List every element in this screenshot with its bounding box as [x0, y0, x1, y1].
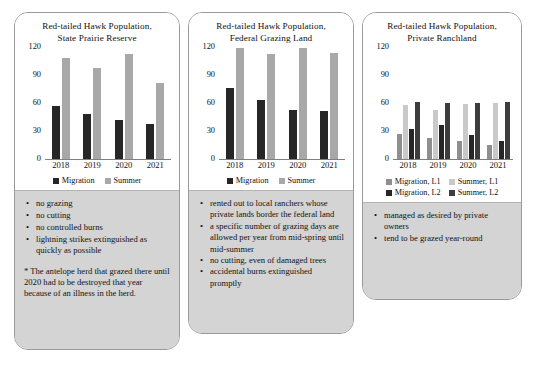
y-tick-label: 120 — [376, 43, 389, 51]
chart-area-2: Red-tailed Hawk Population, Federal Graz… — [189, 13, 353, 190]
bar — [463, 104, 468, 159]
bar — [487, 145, 492, 159]
bar — [83, 114, 91, 159]
x-tick-label: 2018 — [45, 160, 77, 171]
plot-wrapper-3: 0306090120 2018201920202021 — [369, 47, 515, 175]
chart-legend-2: MigrationSummer — [195, 176, 347, 186]
legend-swatch-icon — [227, 178, 233, 184]
x-tick-label: 2018 — [393, 160, 423, 171]
x-axis-labels-2: 2018201920202021 — [219, 160, 345, 171]
legend-label: Summer, L1 — [458, 177, 499, 187]
plot-wrapper-1: 0306090120 2018201920202021 — [21, 47, 173, 175]
x-tick-label: 2018 — [219, 160, 251, 171]
x-tick-label: 2019 — [423, 160, 453, 171]
bar-group — [423, 47, 453, 159]
x-tick-label: 2021 — [140, 160, 172, 171]
y-tick-label: 30 — [33, 127, 41, 135]
x-tick-label: 2020 — [108, 160, 140, 171]
note-bullet: tend to be grazed year-round — [382, 233, 512, 244]
chart-legend-3: Migration, L1Summer, L1Migration, L2Summ… — [369, 177, 515, 198]
y-tick-label: 0 — [211, 155, 215, 163]
bar — [415, 102, 420, 159]
bar — [156, 83, 164, 159]
y-tick-label: 30 — [381, 127, 389, 135]
chart-title-2-line1: Red-tailed Hawk Population, — [195, 20, 347, 32]
plot-wrapper-2: 0306090120 2018201920202021 — [195, 47, 347, 175]
panel-federal-grazing-land: Red-tailed Hawk Population, Federal Graz… — [188, 12, 354, 334]
note-bullet: no controlled burns — [34, 222, 170, 233]
y-tick-label: 90 — [33, 71, 41, 79]
y-axis-3: 0306090120 — [369, 47, 391, 159]
legend-swatch-icon — [449, 190, 455, 196]
legend-label: Migration — [236, 176, 269, 186]
note-bullet: accidental burns extinguished promptly — [208, 266, 344, 289]
bar-group — [453, 47, 483, 159]
bar-group — [314, 47, 346, 159]
bar-group — [45, 47, 77, 159]
bar — [289, 110, 297, 159]
legend-swatch-icon — [449, 179, 455, 185]
bar — [320, 111, 328, 159]
notes-box-1: no grazingno cuttingno controlled burnsl… — [15, 190, 179, 349]
note-bullet: a specific number of grazing days are al… — [208, 221, 344, 255]
notes-box-2: rented out to local ranchers whose priva… — [189, 190, 353, 333]
notes-footnote-1: * The antelope herd that grazed there un… — [24, 266, 170, 300]
chart-area-1: Red-tailed Hawk Population, State Prairi… — [15, 13, 179, 190]
x-tick-label: 2019 — [77, 160, 109, 171]
legend-item: Summer — [279, 176, 316, 186]
legend-item: Summer, L2 — [449, 188, 499, 198]
panel-state-prairie-reserve: Red-tailed Hawk Population, State Prairi… — [14, 12, 180, 350]
legend-swatch-icon — [279, 178, 285, 184]
chart-title-3-line1: Red-tailed Hawk Population, — [369, 20, 515, 32]
bar — [226, 88, 234, 159]
y-tick-label: 90 — [207, 71, 215, 79]
legend-item: Summer — [105, 176, 142, 186]
bar — [505, 102, 510, 159]
note-bullet: rented out to local ranchers whose priva… — [208, 198, 344, 221]
y-tick-label: 30 — [207, 127, 215, 135]
y-tick-label: 60 — [33, 99, 41, 107]
y-tick-label: 120 — [202, 43, 215, 51]
legend-label: Summer — [114, 176, 142, 186]
bar — [445, 103, 450, 159]
y-tick-label: 120 — [28, 43, 41, 51]
bar — [499, 141, 504, 159]
y-tick-label: 90 — [381, 71, 389, 79]
bar-group — [251, 47, 283, 159]
legend-label: Summer — [288, 176, 316, 186]
notes-list-3: managed as desired by private ownerstend… — [372, 210, 512, 245]
chart-area-3: Red-tailed Hawk Population, Private Ranc… — [363, 13, 521, 202]
legend-swatch-icon — [386, 190, 392, 196]
legend-item: Migration, L1 — [386, 177, 441, 187]
bar — [236, 48, 244, 159]
bar — [93, 68, 101, 159]
slide-canvas: Red-tailed Hawk Population, State Prairi… — [0, 0, 538, 367]
x-axis-labels-1: 2018201920202021 — [45, 160, 171, 171]
bar — [427, 138, 432, 159]
bar-group — [393, 47, 423, 159]
bar — [52, 106, 60, 159]
y-tick-label: 0 — [385, 155, 389, 163]
legend-swatch-icon — [105, 178, 111, 184]
legend-label: Migration, L1 — [395, 177, 441, 187]
x-tick-label: 2020 — [453, 160, 483, 171]
legend-label: Migration, L2 — [395, 188, 441, 198]
notes-box-3: managed as desired by private ownerstend… — [363, 202, 521, 299]
x-tick-label: 2021 — [314, 160, 346, 171]
bar — [403, 105, 408, 159]
bar — [267, 54, 275, 159]
bar — [493, 103, 498, 159]
note-bullet: no cutting — [34, 210, 170, 221]
chart-title-2: Red-tailed Hawk Population, Federal Graz… — [195, 20, 347, 44]
plot-bars-1 — [45, 47, 171, 160]
bar — [439, 125, 444, 159]
bar — [299, 48, 307, 159]
legend-item: Migration — [53, 176, 95, 186]
bar — [125, 54, 133, 159]
legend-swatch-icon — [53, 178, 59, 184]
bar — [409, 129, 414, 159]
bar-group — [77, 47, 109, 159]
legend-item: Migration, L2 — [386, 188, 441, 198]
chart-title-3: Red-tailed Hawk Population, Private Ranc… — [369, 20, 515, 44]
legend-item: Migration — [227, 176, 269, 186]
